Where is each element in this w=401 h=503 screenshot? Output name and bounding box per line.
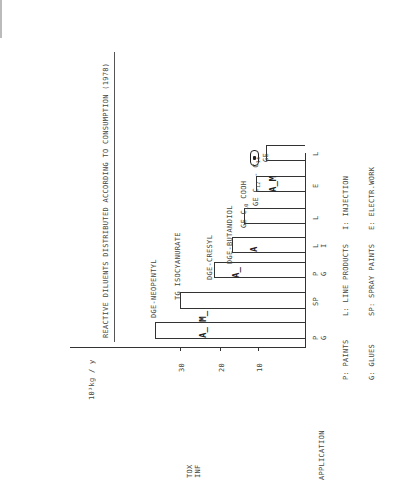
legend-injection: I: INJECTION xyxy=(342,176,350,230)
application-label: APPLICATION xyxy=(318,430,326,480)
bar-tg-isocyanurate xyxy=(180,292,305,309)
bar-dge-butandiol xyxy=(232,237,305,253)
app-3-b: G xyxy=(320,271,328,276)
label-dge-neopentyl: DGE-NEOPENTYL xyxy=(150,259,158,318)
title-underline xyxy=(114,52,115,342)
chart-title: REACTIVE DILUENTS DISTRIBUTED ACCORDING … xyxy=(102,63,110,338)
legend-glues: G: GLUES xyxy=(368,344,376,380)
tick-label-30: 30 xyxy=(178,363,186,372)
tick-10 xyxy=(258,347,259,351)
label-dge-cresyl: DGE-CRESYL xyxy=(206,235,214,280)
tick-20 xyxy=(220,347,221,351)
label-tg-isocyanurate: TG ISOCYANURATE xyxy=(174,232,182,300)
app-3-a: P xyxy=(312,271,320,276)
symbol-neopentyl: A̲ M̲ xyxy=(198,311,208,338)
legend-spray-paints: SP: SPRAY PAINTS xyxy=(368,244,376,316)
tox-label-2: INF xyxy=(194,464,202,478)
app-2: SP xyxy=(312,297,320,306)
label-ge-c10-cooh: GE C10 COOH xyxy=(240,181,249,228)
tick-label-20: 20 xyxy=(218,363,226,372)
legend-paints: P: PAINTS xyxy=(342,339,350,380)
symbol-cresyl: A̲ xyxy=(231,267,241,278)
label-dge-butandiol: DGE-BUTANDIOL xyxy=(226,205,234,264)
page-edge-mark xyxy=(0,0,2,38)
axis-unit-label: 10³kg / y xyxy=(88,359,96,400)
symbol-butandiol: A xyxy=(249,247,259,252)
tick-30 xyxy=(180,347,181,351)
app-6: E xyxy=(312,183,320,188)
tick-label-10: 10 xyxy=(256,363,264,372)
app-5: L xyxy=(312,215,320,220)
value-axis xyxy=(70,347,306,348)
label-ge: GE xyxy=(262,153,270,162)
app-4-a: L xyxy=(312,243,320,248)
label-ge-c12-c14: GE C12 - C14 xyxy=(252,157,261,206)
app-1-b: G xyxy=(320,335,328,340)
app-1-a: P xyxy=(312,335,320,340)
tox-label-1: TOX xyxy=(186,464,194,478)
bar-ge-c12-c14 xyxy=(256,176,305,192)
bar-dge-cresyl xyxy=(214,262,305,278)
app-7: L xyxy=(312,151,320,156)
app-4-b: I xyxy=(320,243,328,248)
symbol-c12-c14: A̲M xyxy=(268,176,278,192)
bar-ge-c10-cooh xyxy=(244,208,305,224)
bar-dge-neopentyl xyxy=(155,322,305,339)
bar-ge xyxy=(266,145,305,161)
legend-electr-work: E: ELECTR.WORK xyxy=(368,167,376,230)
legend-line-products: L: LINE PRODUCTS xyxy=(342,244,350,316)
category-baseline xyxy=(305,153,306,348)
